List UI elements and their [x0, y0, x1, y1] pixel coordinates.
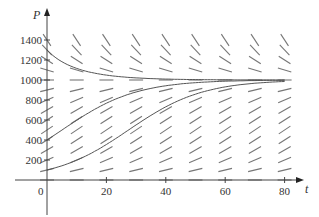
slope-segment	[190, 126, 202, 134]
slope-segment	[189, 168, 203, 171]
slope-segment	[219, 107, 231, 114]
slope-segment	[250, 45, 260, 55]
slope-segment	[278, 97, 291, 103]
slope-segment	[218, 68, 231, 72]
slope-segment	[159, 88, 173, 91]
slope-segment	[159, 68, 172, 72]
slope-segment	[71, 56, 83, 64]
y-tick-label: 200	[26, 154, 43, 166]
slope-segment	[100, 88, 114, 91]
slope-segment	[279, 107, 291, 114]
x-axis-label: t	[305, 182, 309, 196]
x-tick-label: 80	[279, 185, 291, 197]
slope-segment	[189, 157, 202, 163]
slope-segment	[130, 56, 142, 64]
slope-segment	[159, 97, 172, 103]
slope-segment	[281, 34, 289, 46]
slope-segment	[189, 97, 202, 103]
slope-segment	[100, 97, 113, 103]
slope-segment	[249, 136, 261, 144]
slope-segment	[70, 97, 83, 103]
slope-segment	[190, 136, 202, 144]
slope-segment	[219, 97, 232, 103]
slope-segment	[71, 126, 83, 134]
axes	[15, 8, 304, 215]
slope-segment	[219, 136, 231, 144]
x-tick-label: 40	[160, 185, 172, 197]
slope-segment	[279, 56, 291, 64]
slope-segment	[190, 56, 202, 64]
slope-segment	[249, 56, 261, 64]
slope-segment	[219, 56, 231, 64]
slope-segment	[279, 136, 291, 144]
slope-segment	[192, 34, 200, 46]
origin-label: 0	[38, 185, 44, 197]
slope-segment	[160, 56, 172, 64]
slope-segment	[278, 68, 291, 72]
slope-segment	[189, 68, 202, 72]
slope-segment	[279, 126, 291, 134]
slope-segment	[129, 168, 143, 171]
solution-curve	[47, 50, 285, 80]
slope-segment	[71, 147, 83, 154]
slope-segment	[280, 45, 290, 55]
slope-segment	[248, 68, 261, 72]
axis-ticks: 20406080200400600800100012001400	[20, 34, 291, 197]
slope-segment	[101, 116, 113, 124]
slope-segment	[71, 136, 83, 144]
slope-segment	[219, 116, 231, 124]
slope-segment	[160, 126, 172, 134]
slope-segment	[249, 147, 261, 154]
slope-field-chart: 20406080200400600800100012001400 P t 0	[0, 0, 319, 217]
slope-segment	[101, 126, 113, 134]
slope-segment	[278, 88, 292, 91]
slope-segment	[102, 45, 112, 55]
y-tick-label: 1400	[20, 34, 43, 46]
slope-segment	[71, 107, 83, 114]
slope-segment	[159, 157, 172, 163]
y-tick-label: 600	[26, 114, 43, 126]
slope-segment	[218, 168, 232, 171]
slope-segment	[249, 107, 261, 114]
slope-segment	[219, 157, 232, 163]
slope-segment	[101, 136, 113, 144]
x-tick-label: 20	[101, 185, 113, 197]
slope-segment	[131, 45, 141, 55]
slope-segment	[130, 136, 142, 144]
slope-segment	[279, 147, 291, 154]
slope-segment	[130, 157, 143, 163]
slope-segment	[100, 168, 114, 171]
y-axis-arrow-icon	[44, 8, 50, 16]
slope-segment	[248, 157, 261, 163]
slope-segment	[70, 168, 84, 171]
slope-segment	[160, 136, 172, 144]
slope-segment	[130, 147, 142, 154]
slope-segment	[100, 68, 113, 72]
slope-segment	[191, 45, 201, 55]
slope-segment	[278, 157, 291, 163]
slope-segment	[248, 97, 261, 103]
slope-segment	[73, 34, 81, 46]
slope-segment	[221, 34, 229, 46]
x-axis-arrow-icon	[296, 177, 304, 183]
slope-segment	[248, 88, 262, 91]
slope-segment	[251, 34, 259, 46]
y-tick-label: 1200	[20, 54, 43, 66]
slope-segment	[159, 168, 173, 171]
slope-segment	[100, 107, 112, 114]
slope-segment	[160, 107, 172, 114]
slope-segment	[219, 147, 231, 154]
slope-segment	[100, 157, 113, 163]
slope-segment	[132, 34, 140, 46]
slope-segment	[189, 107, 201, 114]
slope-segment	[101, 56, 113, 64]
slope-segment	[161, 45, 171, 55]
slope-segment	[249, 116, 261, 124]
slope-segment	[162, 34, 170, 46]
slope-segment	[220, 45, 230, 55]
slope-segment	[70, 88, 84, 91]
slope-segment	[190, 116, 202, 124]
slope-segment	[249, 126, 261, 134]
slope-segment	[129, 68, 142, 72]
slope-segment	[160, 147, 172, 154]
